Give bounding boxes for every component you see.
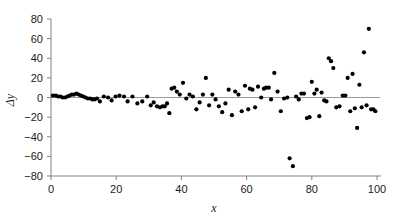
data-point xyxy=(167,111,171,115)
y-tick-label: 80 xyxy=(31,13,43,25)
data-point xyxy=(329,59,333,63)
data-point xyxy=(307,115,311,119)
data-point xyxy=(240,109,244,113)
data-point xyxy=(220,110,224,114)
data-point xyxy=(362,50,366,54)
data-point xyxy=(285,95,289,99)
y-tick-label: 20 xyxy=(31,72,43,84)
x-tick-label: 0 xyxy=(48,183,54,195)
data-point xyxy=(172,86,176,90)
y-tick-label: 40 xyxy=(31,52,43,64)
data-point xyxy=(145,94,149,98)
data-point xyxy=(279,109,283,113)
data-point xyxy=(152,100,156,104)
data-point xyxy=(343,93,347,97)
data-point xyxy=(275,90,279,94)
data-point xyxy=(178,92,182,96)
data-point xyxy=(243,84,247,88)
data-point xyxy=(319,90,323,94)
data-point xyxy=(331,66,335,70)
data-point xyxy=(364,103,368,107)
data-point xyxy=(201,92,205,96)
data-point xyxy=(348,109,352,113)
data-point xyxy=(122,94,126,98)
data-point xyxy=(207,103,211,107)
data-point xyxy=(291,164,295,168)
data-point xyxy=(130,94,134,98)
data-point xyxy=(317,114,321,118)
data-point xyxy=(310,80,314,84)
x-tick-label: 100 xyxy=(368,183,386,195)
data-point xyxy=(353,106,357,110)
data-point xyxy=(360,105,364,109)
data-point xyxy=(210,92,214,96)
data-point xyxy=(198,100,202,104)
x-tick-label: 60 xyxy=(240,183,252,195)
data-point xyxy=(184,96,188,100)
y-axis-title: Δy xyxy=(3,93,17,107)
y-tick-label: −20 xyxy=(24,111,43,123)
data-point xyxy=(272,71,276,75)
x-axis-title: x xyxy=(210,201,217,215)
data-point xyxy=(315,88,319,92)
data-point xyxy=(346,76,350,80)
data-point xyxy=(117,93,121,97)
data-point xyxy=(181,81,185,85)
data-point xyxy=(191,94,195,98)
x-tick-label: 80 xyxy=(306,183,318,195)
x-tick-label: 20 xyxy=(110,183,122,195)
data-point xyxy=(256,85,260,89)
data-point xyxy=(236,92,240,96)
data-point xyxy=(227,88,231,92)
y-tick-label: 0 xyxy=(37,92,43,104)
data-point xyxy=(246,107,250,111)
data-point xyxy=(373,109,377,113)
data-point xyxy=(269,97,273,101)
y-tick-label: 60 xyxy=(31,33,43,45)
y-tick-label: −40 xyxy=(24,131,43,143)
data-point xyxy=(230,113,234,117)
data-point xyxy=(135,101,139,105)
data-point xyxy=(302,91,306,95)
data-point xyxy=(110,98,114,102)
data-point xyxy=(113,94,117,98)
chart-background xyxy=(0,0,401,222)
data-point xyxy=(357,83,361,87)
data-point xyxy=(194,107,198,111)
data-point xyxy=(140,99,144,103)
data-point xyxy=(233,90,237,94)
data-point xyxy=(367,27,371,31)
data-point xyxy=(223,101,227,105)
data-point xyxy=(312,91,316,95)
data-point xyxy=(288,156,292,160)
scatter-plot-figure: −80−60−40−20020406080 020406080100 Δy x xyxy=(0,0,401,222)
data-point xyxy=(106,95,110,99)
data-point xyxy=(98,99,102,103)
data-point xyxy=(204,76,208,80)
data-point xyxy=(259,95,263,99)
data-point xyxy=(297,97,301,101)
data-point xyxy=(217,104,221,108)
data-point xyxy=(165,101,169,105)
data-point xyxy=(102,94,106,98)
y-tick-label: −60 xyxy=(24,150,43,162)
data-point xyxy=(253,105,257,109)
x-tick-label: 40 xyxy=(175,183,187,195)
data-point xyxy=(324,99,328,103)
data-point xyxy=(337,104,341,108)
data-point xyxy=(126,99,130,103)
y-tick-label: −80 xyxy=(24,170,43,182)
chart-canvas: −80−60−40−20020406080 020406080100 Δy x xyxy=(0,0,401,222)
data-point xyxy=(355,126,359,130)
data-point xyxy=(214,97,218,101)
data-point xyxy=(250,88,254,92)
data-point xyxy=(267,86,271,90)
data-point xyxy=(350,72,354,76)
